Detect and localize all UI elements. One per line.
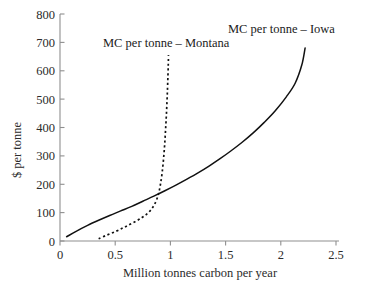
chart-figure: 800 700 600 500 400 300 200 100 0 $ per …	[0, 0, 365, 289]
y-axis-title: $ per tonne	[10, 121, 24, 178]
x-axis-tick-labels: 0 0.5 1 1.5 2 2.5	[57, 248, 344, 262]
series-annotations: MC per tonne – Montana MC per tonne – Io…	[103, 22, 335, 50]
y-tick-label-0: 0	[49, 235, 55, 249]
x-tick-label-2: 2	[278, 248, 284, 262]
y-tick-label-300: 300	[36, 149, 55, 163]
y-axis-ticks	[60, 14, 65, 241]
y-tick-label-800: 800	[36, 8, 55, 22]
x-tick-label-1-5: 1.5	[218, 248, 234, 262]
x-tick-label-1: 1	[167, 248, 173, 262]
y-tick-label-400: 400	[36, 121, 55, 135]
series-line-montana	[99, 55, 169, 239]
y-tick-label-100: 100	[36, 206, 55, 220]
y-tick-label-500: 500	[36, 93, 55, 107]
x-tick-label-2-5: 2.5	[328, 248, 344, 262]
y-axis-tick-labels: 800 700 600 500 400 300 200 100 0	[36, 8, 55, 249]
series-label-montana: MC per tonne – Montana	[103, 36, 230, 50]
x-axis: 0 0.5 1 1.5 2 2.5 Million tonnes carbon …	[57, 241, 344, 280]
chart-canvas: 800 700 600 500 400 300 200 100 0 $ per …	[0, 0, 365, 289]
x-axis-ticks	[60, 241, 336, 246]
y-axis: 800 700 600 500 400 300 200 100 0 $ per …	[10, 8, 65, 249]
x-tick-label-0: 0	[57, 248, 63, 262]
y-tick-label-200: 200	[36, 178, 55, 192]
series-group	[67, 48, 305, 239]
x-tick-label-0-5: 0.5	[107, 248, 123, 262]
x-axis-title: Million tonnes carbon per year	[123, 266, 278, 280]
y-tick-label-600: 600	[36, 64, 55, 78]
series-line-iowa	[67, 48, 305, 237]
series-label-iowa: MC per tonne – Iowa	[228, 22, 335, 36]
y-tick-label-700: 700	[36, 36, 55, 50]
